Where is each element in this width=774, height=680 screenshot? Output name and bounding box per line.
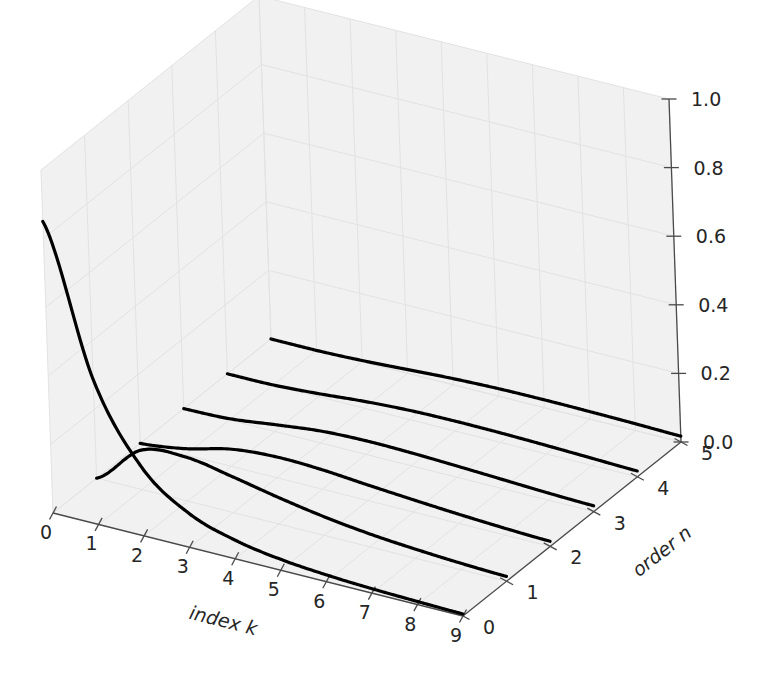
- y-tick-label-4: 4: [657, 477, 669, 499]
- z-tick-label-0: 0.0: [703, 431, 733, 453]
- y-tick-label-0: 0: [483, 616, 495, 638]
- x-tick-label-5: 5: [268, 578, 280, 600]
- x-tick-label-4: 4: [222, 567, 234, 589]
- plot-3d: 01234567890123450.00.20.40.60.81.0index …: [0, 0, 774, 680]
- figure-canvas: 01234567890123450.00.20.40.60.81.0index …: [0, 0, 774, 680]
- z-tick-label-3: 0.6: [696, 225, 726, 247]
- z-tick-label-1: 0.2: [701, 362, 731, 384]
- y-tick-label-2: 2: [570, 546, 582, 568]
- x-tick-label-2: 2: [131, 544, 143, 566]
- axes-panes: [41, 0, 681, 616]
- x-tick-label-3: 3: [177, 555, 189, 577]
- x-axis-title: index k: [187, 601, 261, 640]
- x-tick-label-6: 6: [313, 590, 325, 612]
- z-tick-label-4: 0.8: [693, 157, 723, 179]
- x-tick-label-7: 7: [359, 601, 371, 623]
- y-tick-label-3: 3: [614, 512, 626, 534]
- x-tick-label-0: 0: [40, 521, 52, 543]
- x-tick-label-8: 8: [404, 613, 416, 635]
- y-axis-title: order n: [628, 521, 696, 581]
- y-tick-label-1: 1: [527, 581, 539, 603]
- x-tick-label-1: 1: [86, 532, 98, 554]
- z-tick-label-5: 1.0: [691, 88, 721, 110]
- z-tick-label-2: 0.4: [698, 294, 728, 316]
- x-tick-label-9: 9: [450, 624, 462, 646]
